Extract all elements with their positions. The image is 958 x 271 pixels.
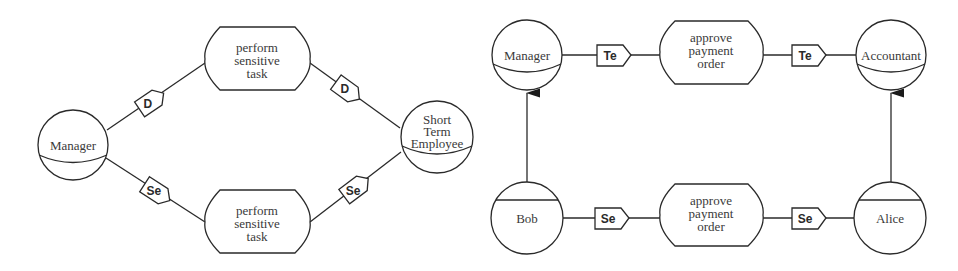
user-bob[interactable]: Bob: [491, 182, 563, 254]
tag-label: Te: [798, 49, 811, 63]
role-label: Manager: [50, 138, 97, 153]
task-label-line3: order: [697, 219, 725, 234]
task-bottom-right[interactable]: approve payment order: [660, 184, 763, 246]
constraint-tag-d-right[interactable]: D: [331, 75, 365, 107]
user-alice[interactable]: Alice: [854, 182, 926, 254]
role-label: Manager: [504, 48, 551, 63]
constraint-tag-se-bottom-right[interactable]: Se: [792, 208, 826, 229]
task-top-left[interactable]: perform sensitive task: [205, 27, 310, 90]
tag-label: Se: [601, 212, 616, 226]
task-label-line3: order: [697, 56, 725, 71]
user-label: Bob: [516, 211, 538, 226]
tag-label: Se: [146, 184, 161, 198]
constraint-tag-te-right[interactable]: Te: [792, 45, 826, 66]
diagram-canvas: Manager Short Term Employee perform sens…: [0, 0, 958, 271]
role-short-term-employee[interactable]: Short Term Employee: [401, 101, 473, 173]
task-top-right[interactable]: approve payment order: [660, 21, 763, 84]
task-label-line3: task: [247, 229, 268, 244]
left-diagram: Manager Short Term Employee perform sens…: [38, 27, 473, 253]
role-manager-right[interactable]: Manager: [492, 20, 562, 90]
tag-label: D: [340, 82, 349, 96]
tag-label: Se: [798, 212, 813, 226]
task-bottom-left[interactable]: perform sensitive task: [205, 190, 310, 253]
tag-label: Te: [603, 49, 616, 63]
constraint-tag-d-left[interactable]: D: [135, 86, 169, 117]
role-accountant[interactable]: Accountant: [856, 20, 926, 90]
tag-label: D: [144, 97, 153, 111]
role-manager-left[interactable]: Manager: [38, 110, 108, 180]
tag-label: Se: [346, 184, 361, 198]
role-label: Accountant: [861, 48, 921, 63]
role-label-line3: Employee: [411, 136, 464, 151]
constraint-tag-se-left[interactable]: Se: [139, 176, 175, 209]
right-diagram: Manager Accountant Bob Alice approve pay…: [491, 20, 926, 254]
user-label: Alice: [876, 211, 904, 226]
constraint-tag-te-left[interactable]: Te: [597, 45, 631, 66]
constraint-tag-se-bottom-left[interactable]: Se: [595, 208, 629, 229]
task-label-line3: task: [247, 66, 268, 81]
